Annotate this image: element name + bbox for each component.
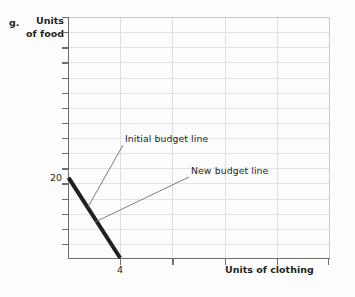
initial-budget-line-series [69,178,121,258]
x-tick-label-4: 4 [107,264,133,275]
y-axis-title-line1: Units [36,15,64,26]
annotation-new-budget-line: New budget line [191,165,268,176]
x-axis-tick [172,259,173,265]
y-axis-title-line2: of food [0,28,64,41]
x-axis-tick [328,259,329,265]
y-axis-title: Units of food [0,15,64,40]
x-axis-title: Units of clothing [225,264,314,275]
annotation-initial-budget-line: Initial budget line [125,133,208,144]
y-tick-label-20: 20 [36,172,62,183]
chart-figure: g. Units of food [0,0,355,297]
